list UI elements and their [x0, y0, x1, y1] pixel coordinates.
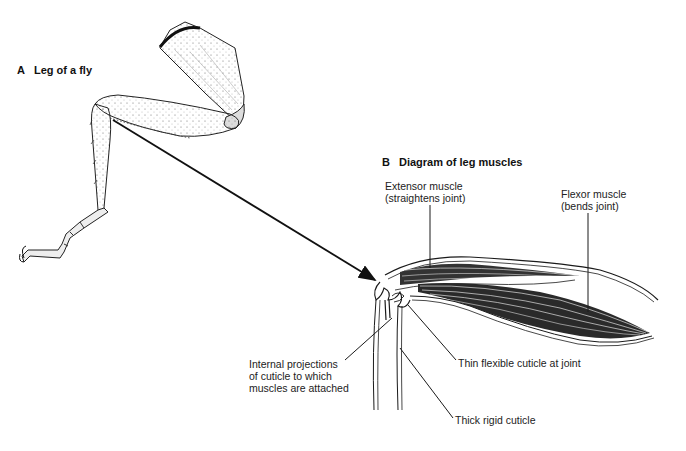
panel-a-title: Leg of a fly: [34, 64, 92, 76]
panel-a-heading: ALeg of a fly: [17, 64, 92, 76]
tibia: [91, 104, 110, 215]
label-thin-flexible-cuticle: Thin flexible cuticle at joint: [458, 357, 581, 369]
leader-thick-cuticle: [400, 348, 453, 418]
label-thick-rigid-cuticle: Thick rigid cuticle: [455, 414, 536, 426]
leader-thin-cuticle: [408, 305, 456, 360]
panel-a-letter: A: [17, 64, 25, 76]
fly-leg-drawing: [20, 22, 245, 262]
muscle-diagram: [345, 205, 658, 418]
label-internal-projections: Internal projections of cuticle to which…: [249, 358, 349, 394]
extensor-muscle: [400, 264, 580, 285]
label-flexor-muscle: Flexor muscle (bends joint): [561, 188, 626, 212]
panel-b-title: Diagram of leg muscles: [399, 156, 523, 168]
panel-b-letter: B: [382, 156, 390, 168]
pointer-arrow: [113, 120, 375, 280]
panel-b-heading: BDiagram of leg muscles: [382, 156, 522, 168]
flexor-muscle: [418, 283, 650, 338]
tibia-cuticle: [373, 300, 376, 410]
tarsus: [22, 208, 108, 262]
leader-projections: [345, 318, 392, 360]
label-extensor-muscle: Extensor muscle (straightens joint): [385, 180, 466, 204]
